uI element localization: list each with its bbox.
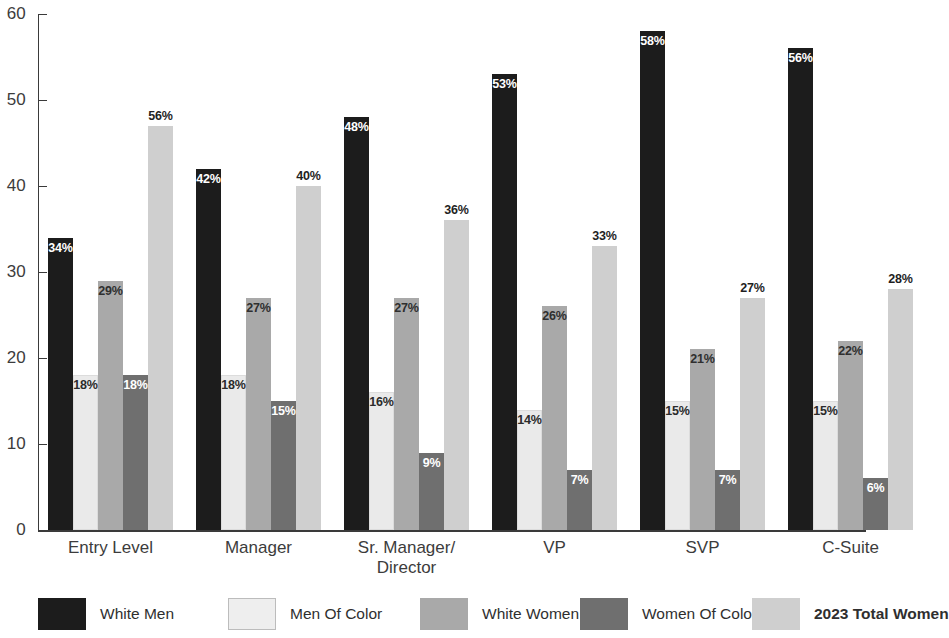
y-tick-label: 20 <box>7 348 26 368</box>
legend-swatch <box>228 598 276 630</box>
y-tick-mark <box>38 358 47 359</box>
bar[interactable]: 9% <box>419 453 444 530</box>
chart-legend: White MenMen Of ColorWhite WomenWomen Of… <box>0 598 874 638</box>
bar-value-label: 34% <box>48 241 72 255</box>
bar-group: 58%15%21%7%27% <box>640 14 765 530</box>
bar[interactable]: 36% <box>444 220 469 530</box>
bar-value-label: 36% <box>444 203 468 217</box>
legend-item[interactable]: White Women <box>420 598 579 630</box>
legend-item[interactable]: Men Of Color <box>228 598 382 630</box>
category-label: SVP <box>618 538 787 558</box>
category-label: Entry Level <box>26 538 195 558</box>
bar-value-label: 27% <box>246 301 270 315</box>
bar[interactable]: 14% <box>517 410 542 530</box>
legend-item[interactable]: 2023 Total Women <box>752 598 949 630</box>
bar-value-label: 48% <box>344 120 368 134</box>
legend-swatch <box>752 598 800 630</box>
bar[interactable]: 15% <box>271 401 296 530</box>
bar-value-label: 56% <box>788 51 812 65</box>
bar[interactable]: 15% <box>665 401 690 530</box>
y-tick-label: 0 <box>16 520 26 540</box>
y-tick-mark <box>38 186 47 187</box>
bar[interactable]: 18% <box>123 375 148 530</box>
x-axis-line <box>38 530 866 532</box>
bar-value-label: 14% <box>517 413 541 427</box>
bar-value-label: 21% <box>690 352 714 366</box>
bar-group: 48%16%27%9%36% <box>344 14 469 530</box>
bar[interactable]: 7% <box>715 470 740 530</box>
bar[interactable]: 48% <box>344 117 369 530</box>
y-tick-label: 50 <box>7 90 26 110</box>
bar[interactable]: 27% <box>246 298 271 530</box>
bar-value-label: 15% <box>271 404 295 418</box>
bar-value-label: 27% <box>394 301 418 315</box>
bar-value-label: 7% <box>719 473 737 487</box>
bar[interactable]: 6% <box>863 478 888 530</box>
bar-value-label: 16% <box>369 395 393 409</box>
legend-label: White Men <box>100 605 174 623</box>
bar-group: 42%18%27%15%40% <box>196 14 321 530</box>
y-tick-label: 40 <box>7 176 26 196</box>
legend-item[interactable]: White Men <box>38 598 174 630</box>
y-tick-label: 60 <box>7 4 26 24</box>
bar[interactable]: 16% <box>369 392 394 530</box>
bar[interactable]: 26% <box>542 306 567 530</box>
bar-value-label: 18% <box>123 378 147 392</box>
bar[interactable]: 22% <box>838 341 863 530</box>
bar-group: 56%15%22%6%28% <box>788 14 913 530</box>
bar[interactable]: 27% <box>394 298 419 530</box>
legend-swatch <box>420 598 468 630</box>
category-label: VP <box>470 538 639 558</box>
bar[interactable]: 18% <box>221 375 246 530</box>
bar-value-label: 53% <box>492 77 516 91</box>
bar[interactable]: 28% <box>888 289 913 530</box>
bar[interactable]: 29% <box>98 281 123 530</box>
bar-value-label: 58% <box>640 34 664 48</box>
bar[interactable]: 40% <box>296 186 321 530</box>
legend-swatch <box>38 598 86 630</box>
legend-item[interactable]: Women Of Color <box>580 598 757 630</box>
bar[interactable]: 53% <box>492 74 517 530</box>
plot-area: 0102030405060 34%18%29%18%56%42%18%27%15… <box>38 14 874 530</box>
bar-value-label: 29% <box>98 284 122 298</box>
bar-value-label: 27% <box>740 281 764 295</box>
bar-value-label: 9% <box>423 456 441 470</box>
legend-label: Men Of Color <box>290 605 382 623</box>
bar[interactable]: 56% <box>788 48 813 530</box>
y-tick-mark <box>38 14 47 15</box>
legend-label: White Women <box>482 605 579 623</box>
bar[interactable]: 34% <box>48 238 73 530</box>
y-tick-label: 30 <box>7 262 26 282</box>
bar[interactable]: 7% <box>567 470 592 530</box>
y-tick-mark <box>38 530 47 531</box>
bar[interactable]: 56% <box>148 126 173 530</box>
bar-value-label: 56% <box>148 109 172 123</box>
bar-value-label: 18% <box>73 378 97 392</box>
legend-label: Women Of Color <box>642 605 757 623</box>
bar[interactable]: 21% <box>690 349 715 530</box>
bar-value-label: 26% <box>542 309 566 323</box>
bar-value-label: 22% <box>838 344 862 358</box>
bar[interactable]: 33% <box>592 246 617 530</box>
bar-value-label: 15% <box>665 404 689 418</box>
y-tick-label: 10 <box>7 434 26 454</box>
bar-value-label: 15% <box>813 404 837 418</box>
bar[interactable]: 42% <box>196 169 221 530</box>
bar-value-label: 33% <box>592 229 616 243</box>
legend-swatch <box>580 598 628 630</box>
category-label: C-Suite <box>766 538 935 558</box>
bar-value-label: 7% <box>571 473 589 487</box>
bar-group: 53%14%26%7%33% <box>492 14 617 530</box>
category-label: Sr. Manager/ Director <box>322 538 491 577</box>
y-tick-mark <box>38 444 47 445</box>
bar-value-label: 28% <box>888 272 912 286</box>
legend-label: 2023 Total Women <box>814 605 949 623</box>
bar[interactable]: 27% <box>740 298 765 530</box>
bar[interactable]: 58% <box>640 31 665 530</box>
y-tick-mark <box>38 100 47 101</box>
bar-value-label: 6% <box>867 481 885 495</box>
category-label: Manager <box>174 538 343 558</box>
bar[interactable]: 18% <box>73 375 98 530</box>
bar[interactable]: 15% <box>813 401 838 530</box>
